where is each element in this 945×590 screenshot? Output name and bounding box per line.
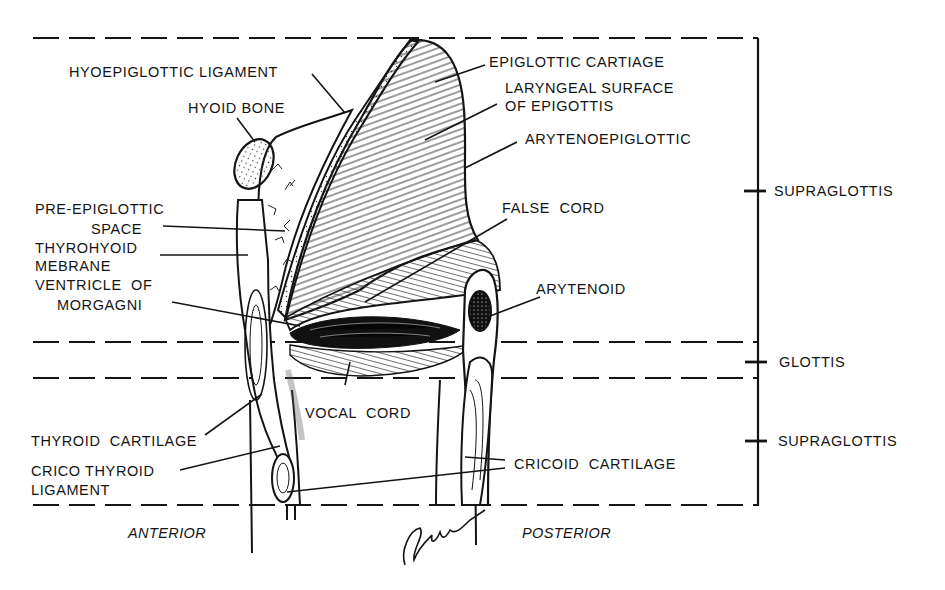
label-pre-epiglottic-1: PRE-EPIGLOTTIC — [35, 201, 164, 218]
label-pre-epiglottic-2: SPACE — [91, 221, 142, 238]
label-cricothyroid-1: CRICO THYROID — [31, 463, 155, 480]
label-hyoepiglottic-ligament: HYOEPIGLOTTIC LIGAMENT — [69, 64, 278, 81]
label-anterior: ANTERIOR — [128, 525, 206, 542]
label-ventricle-2: MORGAGNI — [57, 297, 142, 314]
region-supraglottis-upper: SUPRAGLOTTIS — [774, 183, 893, 200]
larynx-illustration — [0, 0, 945, 590]
anterior-reference-line — [250, 400, 252, 553]
label-arytenoid: ARYTENOID — [536, 281, 626, 298]
region-supraglottis-lower: SUPRAGLOTTIS — [778, 433, 897, 450]
label-thyrohyoid-2: MEBRANE — [35, 258, 111, 275]
label-hyoid-bone: HYOID BONE — [188, 100, 285, 117]
larynx-diagram: HYOEPIGLOTTIC LIGAMENT HYOID BONE PRE-EP… — [0, 0, 945, 590]
leader-aryepiglottic — [465, 142, 517, 168]
label-thyroid-cartilage: THYROID CARTILAGE — [31, 433, 197, 450]
label-laryngeal-surface-2: OF EPIGOTTIS — [505, 98, 614, 115]
label-vocal-cord: VOCAL CORD — [305, 405, 411, 422]
label-posterior: POSTERIOR — [522, 525, 611, 542]
leader-thyroid-cartilage — [205, 394, 262, 435]
leader-hyoid — [237, 118, 255, 142]
label-thyrohyoid-1: THYROHYOID — [35, 240, 138, 257]
ventricle-shape — [290, 317, 460, 349]
arytenoid-shape — [469, 291, 491, 331]
region-bracket — [744, 38, 767, 506]
label-cricothyroid-2: LIGAMENT — [31, 482, 110, 499]
label-laryngeal-surface-1: LARYNGEAL SURFACE — [505, 80, 674, 97]
leader-hyoepiglottic — [312, 74, 345, 113]
label-false-cord: FALSE CORD — [502, 200, 605, 217]
label-epiglottic-cartilage: EPIGLOTTIC CARTIAGE — [489, 54, 665, 71]
label-cricoid-cartilage: CRICOID CARTILAGE — [514, 456, 676, 473]
vocal-cord-shape — [290, 345, 470, 376]
artist-signature — [404, 510, 485, 565]
region-glottis: GLOTTIS — [779, 354, 845, 371]
cricoid-anterior-shape — [272, 454, 294, 502]
label-aryepiglottic: ARYTENOEPIGLOTTIC — [525, 131, 691, 148]
label-ventricle-1: VENTRICLE OF — [35, 277, 152, 294]
